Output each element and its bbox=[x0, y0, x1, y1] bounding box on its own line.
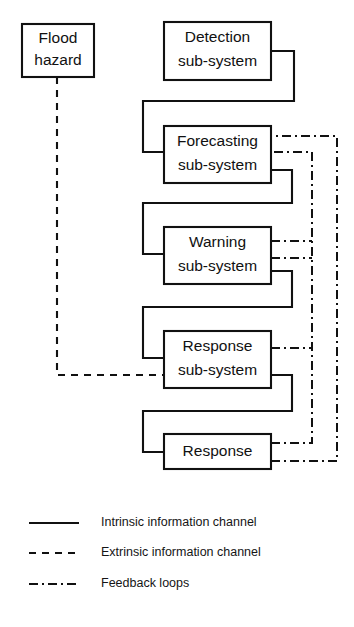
legend-label-extrinsic: Extrinsic information channel bbox=[101, 545, 261, 559]
node-forecasting-label-line2: sub-system bbox=[178, 156, 257, 173]
node-warning[interactable]: Warning sub-system bbox=[164, 227, 271, 284]
node-warning-label-line2: sub-system bbox=[178, 257, 257, 274]
legend-item-extrinsic: Extrinsic information channel bbox=[29, 545, 261, 559]
link-flood-hazard-to-response-sub-system bbox=[57, 77, 164, 375]
node-detection[interactable]: Detection sub-system bbox=[164, 22, 271, 80]
node-warning-label-line1: Warning bbox=[189, 233, 246, 250]
legend-item-intrinsic: Intrinsic information channel bbox=[29, 515, 257, 529]
node-response[interactable]: Response bbox=[164, 434, 271, 469]
legend-label-feedback: Feedback loops bbox=[101, 576, 189, 590]
diagram-canvas: Flood hazard Detection sub-system Foreca… bbox=[0, 0, 354, 627]
node-forecasting-label-line1: Forecasting bbox=[177, 132, 258, 149]
extrinsic-channel-group bbox=[57, 77, 164, 375]
legend: Intrinsic information channel Extrinsic … bbox=[29, 515, 261, 590]
node-flood-hazard[interactable]: Flood hazard bbox=[22, 24, 94, 77]
node-response-label-line1: Response bbox=[183, 442, 253, 459]
node-response-sub-system[interactable]: Response sub-system bbox=[164, 331, 271, 388]
legend-item-feedback: Feedback loops bbox=[29, 576, 189, 590]
node-response-sub-system-label-line2: sub-system bbox=[178, 361, 257, 378]
node-flood-hazard-label-line2: hazard bbox=[34, 51, 81, 68]
feedback-response-to-forecasting-outer bbox=[271, 136, 337, 461]
node-detection-label-line1: Detection bbox=[185, 28, 250, 45]
feedback-loop-group bbox=[271, 136, 337, 461]
node-detection-label-line2: sub-system bbox=[178, 52, 257, 69]
node-response-sub-system-label-line1: Response bbox=[183, 337, 253, 354]
flood-warning-system-diagram: Flood hazard Detection sub-system Foreca… bbox=[0, 0, 354, 627]
node-flood-hazard-label-line1: Flood bbox=[39, 29, 78, 46]
node-forecasting[interactable]: Forecasting sub-system bbox=[164, 126, 271, 183]
legend-label-intrinsic: Intrinsic information channel bbox=[101, 515, 257, 529]
